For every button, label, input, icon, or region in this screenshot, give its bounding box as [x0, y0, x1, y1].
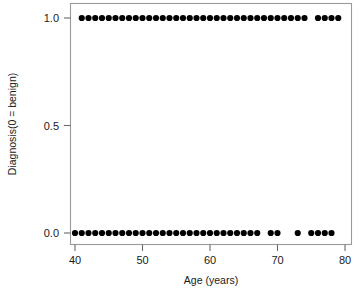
data-point	[220, 230, 226, 236]
data-point	[187, 15, 193, 21]
x-tick-label-70: 70	[271, 254, 283, 266]
data-point	[119, 15, 125, 21]
data-point	[85, 230, 91, 236]
data-point	[99, 15, 105, 21]
data-point	[193, 230, 199, 236]
scatter-plot-figure: 1.0 0.5 0.0 Diagnosis(0 = benign) 40 50 …	[0, 0, 362, 298]
data-point	[315, 230, 321, 236]
data-point	[200, 230, 206, 236]
data-point	[119, 230, 125, 236]
data-point	[295, 230, 301, 236]
data-point	[173, 15, 179, 21]
data-point	[133, 230, 139, 236]
data-point	[301, 15, 307, 21]
y-tick-label-0: 0.0	[44, 227, 59, 239]
data-point	[328, 230, 334, 236]
data-point	[234, 230, 240, 236]
data-point	[247, 230, 253, 236]
data-point	[106, 15, 112, 21]
data-point	[72, 230, 78, 236]
x-axis-title: Age (years)	[184, 274, 238, 286]
data-point	[112, 230, 118, 236]
data-point	[247, 15, 253, 21]
x-tick-label-40: 40	[69, 254, 81, 266]
data-point	[193, 15, 199, 21]
data-point	[200, 15, 206, 21]
x-tick-label-50: 50	[136, 254, 148, 266]
data-point	[146, 15, 152, 21]
data-point	[79, 230, 85, 236]
data-point	[227, 230, 233, 236]
x-tick-label-80: 80	[339, 254, 351, 266]
data-point	[79, 15, 85, 21]
data-point	[288, 15, 294, 21]
data-point	[160, 230, 166, 236]
data-point	[322, 230, 328, 236]
data-point	[92, 15, 98, 21]
data-point	[153, 15, 159, 21]
data-point	[92, 230, 98, 236]
data-point	[146, 230, 152, 236]
data-point	[166, 230, 172, 236]
data-point	[241, 15, 247, 21]
data-point	[187, 230, 193, 236]
data-point	[234, 15, 240, 21]
data-point	[160, 15, 166, 21]
data-point	[308, 230, 314, 236]
data-point	[207, 230, 213, 236]
data-point	[328, 15, 334, 21]
data-point	[315, 15, 321, 21]
data-point	[281, 15, 287, 21]
data-point	[173, 230, 179, 236]
data-point	[254, 15, 260, 21]
data-point	[295, 15, 301, 21]
data-point	[261, 15, 267, 21]
data-point	[139, 15, 145, 21]
data-point	[207, 15, 213, 21]
data-point	[268, 15, 274, 21]
data-point	[241, 230, 247, 236]
data-point	[322, 15, 328, 21]
data-point	[214, 230, 220, 236]
y-tick-label-0.5: 0.5	[44, 120, 59, 132]
y-axis-title: Diagnosis(0 = benign)	[6, 73, 18, 175]
figure-background	[0, 0, 362, 298]
data-point	[139, 230, 145, 236]
data-point	[268, 230, 274, 236]
data-point	[153, 230, 159, 236]
data-point	[133, 15, 139, 21]
data-point	[126, 15, 132, 21]
data-point	[180, 230, 186, 236]
data-point	[180, 15, 186, 21]
data-point	[214, 15, 220, 21]
data-point	[274, 15, 280, 21]
data-point	[335, 15, 341, 21]
data-point	[254, 230, 260, 236]
x-tick-label-60: 60	[204, 254, 216, 266]
data-point	[126, 230, 132, 236]
data-point	[85, 15, 91, 21]
data-point	[112, 15, 118, 21]
data-point	[227, 15, 233, 21]
y-tick-label-1: 1.0	[44, 12, 59, 24]
data-point	[99, 230, 105, 236]
data-point	[106, 230, 112, 236]
data-point	[220, 15, 226, 21]
data-point	[274, 230, 280, 236]
data-point	[166, 15, 172, 21]
